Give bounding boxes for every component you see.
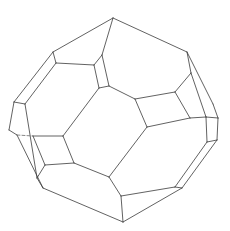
edge-F-O	[191, 73, 206, 117]
edge-B-H	[25, 63, 56, 104]
edge-Z-AA	[45, 163, 74, 165]
edge-Q-P	[147, 118, 190, 127]
edge-AG-AH	[175, 187, 182, 188]
edge-U-AC	[17, 135, 43, 188]
edge-Z-W	[63, 136, 74, 163]
edge-AE-AF	[121, 196, 123, 222]
edge-I-J	[99, 86, 109, 88]
edge-J-K	[109, 86, 135, 99]
edge-AC-AF	[43, 188, 123, 222]
edge-T-E	[113, 18, 187, 52]
edge-A-G	[14, 52, 53, 102]
edge-Q-AD	[109, 127, 147, 177]
edge-AD-AE	[109, 177, 121, 196]
edge-AH-AF	[123, 188, 182, 222]
edge-B-C	[56, 63, 94, 65]
edge-AD-Z	[74, 163, 109, 177]
edge-L-F	[175, 73, 191, 92]
edge-M-N	[213, 104, 218, 118]
edge-G-H	[14, 102, 25, 104]
polyhedron-figure	[0, 0, 230, 231]
edge-Y-AH	[182, 140, 217, 188]
edge-AA-V	[33, 136, 45, 165]
edge-L-P	[175, 92, 190, 118]
edge-A-B	[53, 52, 56, 63]
polyhedron-drawing	[0, 0, 230, 231]
edge-U-V	[17, 135, 33, 136]
edge-C-D	[94, 55, 102, 65]
edge-AA-AB	[37, 165, 45, 178]
edge-O-N	[206, 117, 218, 118]
edge-AG-AE	[121, 187, 175, 196]
edge-K-Q	[135, 99, 147, 127]
edge-G-S	[9, 102, 14, 130]
edge-K-L	[135, 92, 175, 99]
edge-S-U	[9, 130, 17, 135]
edge-N-Y	[217, 118, 218, 140]
edge-O-X	[206, 117, 207, 142]
edge-P-O	[190, 117, 206, 118]
edge-C-I	[94, 65, 99, 88]
edge-I-W	[63, 88, 99, 136]
edge-X-AG	[175, 142, 207, 187]
edge-D-J	[102, 55, 109, 86]
edge-E-M	[187, 52, 213, 104]
